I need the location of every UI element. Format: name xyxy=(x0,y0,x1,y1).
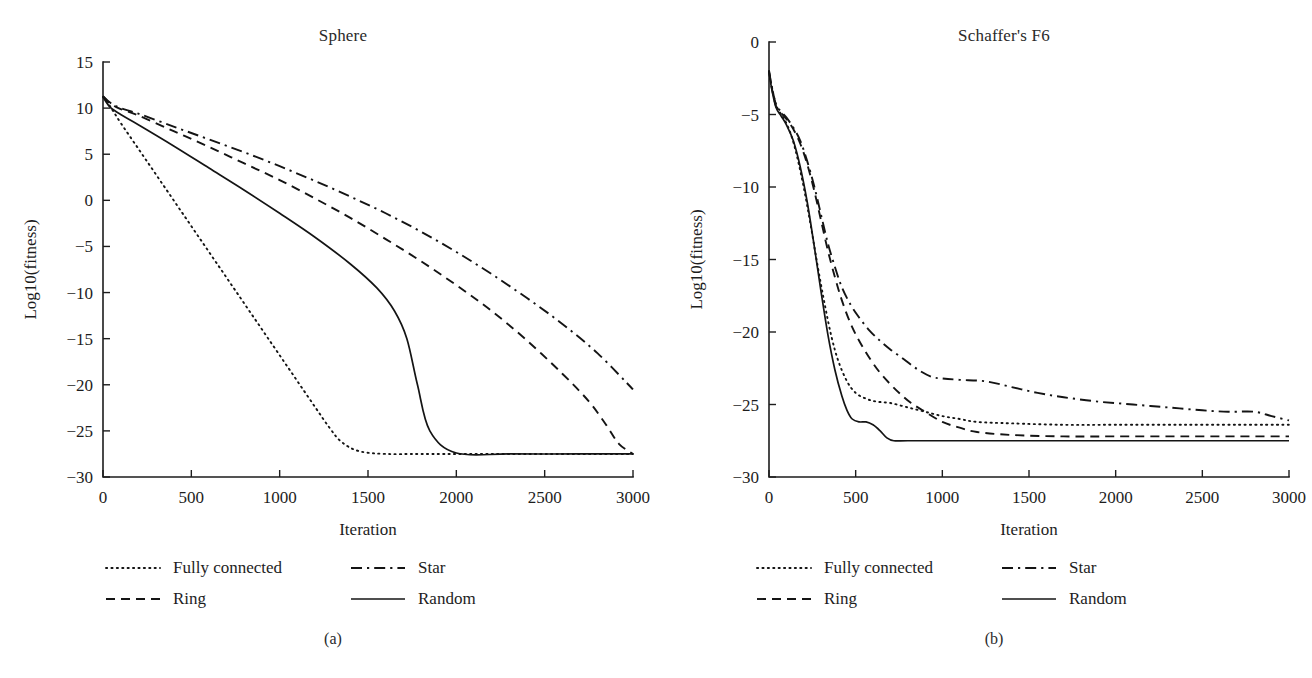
x-tick-label: 500 xyxy=(843,488,869,507)
series-line-random xyxy=(103,97,633,455)
legend-swatch-dashed xyxy=(756,593,812,605)
panel-b-legend: Fully connected Star Ring Random xyxy=(756,552,1226,614)
x-tick-label: 3000 xyxy=(616,488,650,507)
panel-b-sublabel: (b) xyxy=(656,630,1312,648)
x-tick-label: 0 xyxy=(765,488,774,507)
x-tick-label: 3000 xyxy=(1272,488,1306,507)
y-tick-label: −15 xyxy=(66,330,93,349)
series-line-star xyxy=(769,71,1289,420)
x-tick-label: 0 xyxy=(99,488,108,507)
y-tick-label: −30 xyxy=(732,468,759,487)
legend-item-random[interactable]: Random xyxy=(350,589,575,609)
y-tick-label: −5 xyxy=(75,237,93,256)
y-tick-label: −25 xyxy=(732,396,759,415)
legend-label-random: Random xyxy=(1069,589,1127,609)
legend-swatch-dashed xyxy=(105,593,161,605)
legend-swatch-solid xyxy=(1001,593,1057,605)
x-tick-label: 1000 xyxy=(263,488,297,507)
x-tick-label: 1500 xyxy=(1012,488,1046,507)
legend-swatch-dashdot xyxy=(1001,562,1057,574)
panel-a-plot: 151050−5−10−15−20−25−3005001000150020002… xyxy=(0,0,656,540)
y-tick-label: −30 xyxy=(66,468,93,487)
legend-item-random[interactable]: Random xyxy=(1001,589,1226,609)
series-line-ring xyxy=(103,96,633,454)
legend-item-fully-connected[interactable]: Fully connected xyxy=(105,558,350,578)
y-tick-label: −10 xyxy=(732,178,759,197)
x-tick-label: 1500 xyxy=(351,488,385,507)
legend-swatch-dotted xyxy=(756,562,812,574)
legend-label-star: Star xyxy=(1069,558,1096,578)
legend-label-ring: Ring xyxy=(824,589,857,609)
y-axis-title: Log10(fitness) xyxy=(21,219,40,319)
legend-swatch-dotted xyxy=(105,562,161,574)
x-tick-label: 500 xyxy=(179,488,205,507)
panel-a-legend: Fully connected Star Ring Random xyxy=(105,552,575,614)
series-line-ring xyxy=(769,71,1289,437)
legend-item-star[interactable]: Star xyxy=(1001,558,1226,578)
legend-item-fully-connected[interactable]: Fully connected xyxy=(756,558,1001,578)
legend-item-ring[interactable]: Ring xyxy=(105,589,350,609)
legend-label-star: Star xyxy=(418,558,445,578)
legend-label-fully-connected: Fully connected xyxy=(824,558,933,578)
y-tick-label: −20 xyxy=(66,376,93,395)
legend-swatch-solid xyxy=(350,593,406,605)
y-tick-label: −25 xyxy=(66,422,93,441)
series-line-star xyxy=(103,96,633,389)
legend-item-star[interactable]: Star xyxy=(350,558,575,578)
x-tick-label: 1000 xyxy=(925,488,959,507)
legend-label-random: Random xyxy=(418,589,476,609)
y-tick-label: −15 xyxy=(732,251,759,270)
y-tick-label: −10 xyxy=(66,284,93,303)
y-tick-label: 0 xyxy=(85,191,94,210)
panel-b: Schaffer's F6 0−5−10−15−20−25−3005001000… xyxy=(656,0,1312,678)
y-tick-label: 15 xyxy=(76,53,93,72)
x-axis-title: Iteration xyxy=(1000,520,1058,539)
panel-b-plot: 0−5−10−15−20−25−300500100015002000250030… xyxy=(656,0,1312,540)
panel-a: Sphere 151050−5−10−15−20−25−300500100015… xyxy=(0,0,656,678)
y-tick-label: −20 xyxy=(732,323,759,342)
panel-a-sublabel: (a) xyxy=(0,630,656,648)
y-axis-title: Log10(fitness) xyxy=(687,209,706,309)
y-tick-label: 10 xyxy=(76,99,93,118)
x-axis-title: Iteration xyxy=(339,520,397,539)
x-tick-label: 2500 xyxy=(1185,488,1219,507)
legend-label-fully-connected: Fully connected xyxy=(173,558,282,578)
legend-label-ring: Ring xyxy=(173,589,206,609)
series-line-random xyxy=(769,71,1289,441)
x-tick-label: 2500 xyxy=(528,488,562,507)
series-line-fully-connected xyxy=(769,71,1289,425)
figure-convergence-curves: Sphere 151050−5−10−15−20−25−300500100015… xyxy=(0,0,1312,678)
y-tick-label: 5 xyxy=(85,145,94,164)
y-tick-label: −5 xyxy=(741,106,759,125)
y-tick-label: 0 xyxy=(751,33,760,52)
legend-swatch-dashdot xyxy=(350,562,406,574)
x-tick-label: 2000 xyxy=(439,488,473,507)
legend-item-ring[interactable]: Ring xyxy=(756,589,1001,609)
x-tick-label: 2000 xyxy=(1099,488,1133,507)
